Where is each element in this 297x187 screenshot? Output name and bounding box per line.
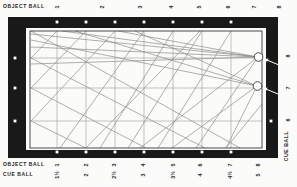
scale-top-object-number: 6: [225, 6, 231, 9]
diamond-dot: [114, 21, 117, 24]
diamond-dot: [270, 120, 273, 123]
scale-top-object-number: 7: [251, 5, 257, 8]
scale-bottom-object-number: 5: [170, 164, 176, 167]
scale-bottom-cue-number: 1½: [54, 171, 60, 179]
scale-bottom-object-number: 3: [111, 164, 117, 167]
scale-bottom-cue-number: 2: [83, 174, 89, 177]
diamond-dot: [56, 151, 59, 154]
diamond-dot: [85, 21, 88, 24]
scale-bottom-object-number: 4: [140, 164, 146, 167]
scale-bottom-cue-number: 4½: [227, 171, 233, 179]
diamond-dot: [14, 87, 17, 90]
billiard-diagram-page: OBJECT BALL OBJECT BALL CUE BALL 1234567…: [0, 0, 297, 187]
diamond-dot: [201, 151, 204, 154]
diamond-dot: [201, 21, 204, 24]
cue-ball-7: [253, 82, 262, 91]
billiard-table-diagram: 12345678123456781½22½33½44½5876 CUE BALL: [0, 0, 297, 187]
scale-top-object-number: 5: [196, 6, 202, 9]
scale-bottom-cue-number: 3½: [170, 171, 176, 179]
scale-right-cue-number: 7: [285, 87, 291, 90]
diamond-dot: [114, 151, 117, 154]
scale-bottom-object-number: 1: [54, 164, 60, 167]
right-cue-ball-label: CUE BALL: [283, 131, 289, 162]
diamond-dot: [172, 151, 175, 154]
diamond-dot: [230, 151, 233, 154]
diamond-dot: [143, 21, 146, 24]
scale-top-object-number: 2: [99, 6, 105, 9]
diamond-dot: [14, 120, 17, 123]
scale-bottom-cue-number: 5: [255, 174, 261, 177]
scale-bottom-object-number: 6: [197, 164, 203, 167]
scale-bottom-cue-number: 4: [197, 174, 203, 177]
diamond-dot: [172, 21, 175, 24]
cue-ball-8: [254, 53, 263, 62]
scale-bottom-cue-number: 2½: [111, 171, 117, 179]
scale-bottom-object-number: 8: [255, 164, 261, 167]
scale-bottom-cue-number: 3: [140, 174, 146, 177]
diamond-dot: [230, 21, 233, 24]
scale-top-object-number: 4: [168, 6, 174, 9]
scale-bottom-object-number: 2: [83, 164, 89, 167]
scale-top-object-number: 8: [276, 6, 282, 9]
diamond-dot: [14, 57, 17, 60]
diamond-dot: [85, 151, 88, 154]
scale-right-cue-number: 8: [285, 55, 291, 58]
scale-top-object-number: 3: [137, 6, 143, 9]
scale-top-object-number: 1: [54, 6, 60, 9]
diamond-dot: [143, 151, 146, 154]
scale-right-cue-number: 6: [285, 119, 291, 122]
diamond-dot: [56, 21, 59, 24]
scale-bottom-object-number: 7: [227, 164, 233, 167]
